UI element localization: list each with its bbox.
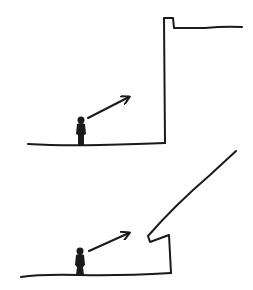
top-panel	[28, 18, 242, 145]
bottom-sloped-wall	[148, 151, 236, 273]
top-ground-line	[28, 143, 165, 145]
sketch-svg	[0, 0, 253, 290]
bottom-panel	[21, 151, 236, 277]
bottom-person-icon	[75, 248, 85, 276]
sketch-canvas	[0, 0, 253, 290]
top-tall-wall	[164, 18, 242, 143]
bottom-ground-line	[21, 273, 171, 277]
bottom-sightline-arrow	[89, 233, 129, 251]
top-sightline-arrow	[88, 97, 129, 118]
top-person-icon	[76, 117, 86, 146]
